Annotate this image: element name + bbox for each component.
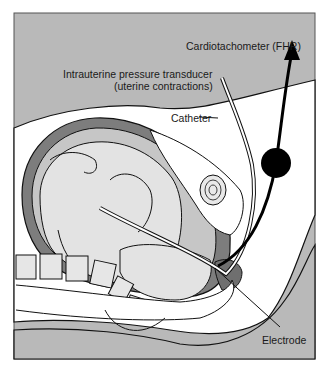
electrode-connector [261, 148, 291, 178]
label-transducer-line2: (uterine contractions) [114, 80, 213, 92]
label-catheter: Catheter [171, 112, 211, 124]
label-cardiotachometer: Cardiotachometer (FHR) [186, 40, 301, 52]
label-transducer-line1: Intrauterine pressure transducer [63, 68, 212, 80]
umbilicus [200, 175, 226, 205]
label-electrode: Electrode [262, 334, 306, 346]
illustration-svg [0, 0, 322, 371]
fetal-monitoring-diagram: Cardiotachometer (FHR) Intrauterine pres… [0, 0, 322, 371]
